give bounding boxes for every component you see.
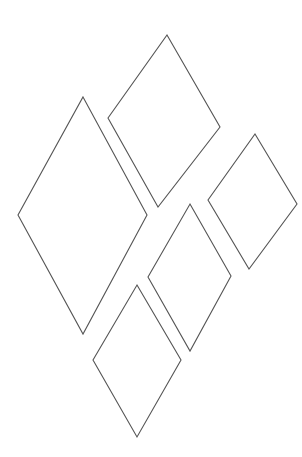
diamond-diagram xyxy=(0,0,302,457)
diamond-left-large xyxy=(18,97,147,334)
diamond-bottom xyxy=(93,285,181,437)
diamond-top-center xyxy=(108,35,220,207)
diamond-middle xyxy=(148,204,231,351)
diamond-right xyxy=(208,134,297,269)
